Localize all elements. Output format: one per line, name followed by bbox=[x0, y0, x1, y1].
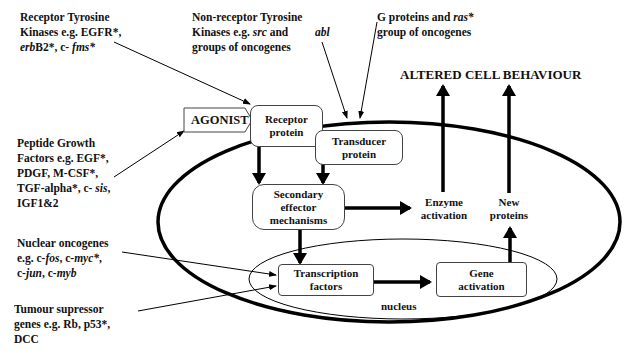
altered-cell-behaviour-title: ALTERED CELL BEHAVIOUR bbox=[400, 67, 581, 83]
label-peptide-growth-factors: Peptide Growth Factors e.g. EGF*, PDGF, … bbox=[17, 136, 110, 211]
receptor-protein-node: Receptorprotein bbox=[250, 105, 323, 147]
agonist-node: AGONIST bbox=[185, 109, 251, 131]
new-proteins-node: Newproteins bbox=[487, 196, 531, 222]
label-abl: abl bbox=[315, 25, 330, 40]
label-nuclear-oncogenes: Nuclear oncogenes e.g. c-fos, c-myc*, c-… bbox=[17, 236, 108, 281]
label-receptor-tyrosine-kinases: Receptor Tyrosine Kinases e.g. EGFR*, er… bbox=[20, 10, 121, 55]
transducer-protein-node: Transducerprotein bbox=[315, 130, 403, 165]
enzyme-activation-node: Enzymeactivation bbox=[412, 196, 476, 222]
label-non-receptor-tyrosine-kinases: Non-receptor Tyrosine Kinases e.g. src a… bbox=[192, 10, 302, 55]
transcription-factors-node: Transcriptionfactors bbox=[278, 264, 374, 296]
nucleus-label: nucleus bbox=[381, 300, 416, 313]
secondary-effector-node: Secondaryeffectormechanisms bbox=[252, 184, 345, 230]
label-g-proteins: G proteins and ras* group of oncogenes bbox=[377, 10, 474, 40]
label-tumour-suppressor-genes: Tumour supressor genes e.g. Rb, p53*, DC… bbox=[14, 302, 110, 347]
gene-activation-node: Geneactivation bbox=[436, 262, 527, 297]
